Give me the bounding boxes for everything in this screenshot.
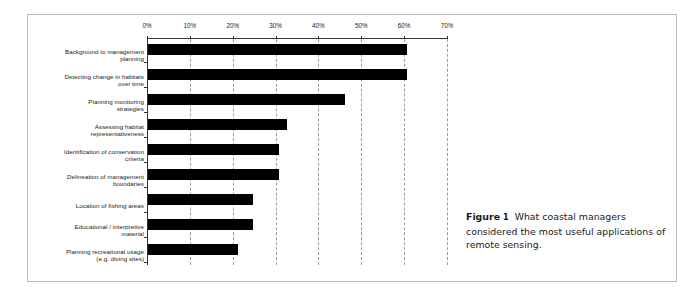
bar [148, 169, 279, 180]
category-label: Planning recreational usage (e.g. diving… [30, 248, 144, 263]
x-axis-tick-label: 50% [355, 22, 368, 29]
bar-chart: Background to management planningDetecti… [30, 16, 460, 278]
category-label: Delineation of management boundaries [30, 173, 144, 188]
category-label: Background to management planning [30, 48, 144, 63]
bar [148, 94, 345, 105]
x-axis-tick-label: 40% [312, 22, 325, 29]
bar [148, 244, 238, 255]
y-axis-tick-mark [144, 237, 147, 238]
bar [148, 69, 407, 80]
x-axis-tick-label: 60% [398, 22, 411, 29]
y-axis-tick-mark [144, 262, 147, 263]
bar [148, 219, 253, 230]
category-label: Assessing habitat representativeness [30, 123, 144, 138]
x-axis-tick-labels: 0%10%20%30%40%50%60%70% [147, 22, 447, 34]
category-label: Planning monitoring strategies [30, 98, 144, 113]
bar [148, 44, 407, 55]
category-label: Educational / interpretive material [30, 223, 144, 238]
x-axis-tick-label: 30% [269, 22, 282, 29]
x-axis-tick-label: 70% [441, 22, 454, 29]
y-axis-tick-mark [144, 87, 147, 88]
category-label: Identification of conservation criteria [30, 148, 144, 163]
category-label: Detecting change in habitats over time [30, 73, 144, 88]
x-axis-tick-label: 10% [184, 22, 197, 29]
figure-root: Background to management planningDetecti… [0, 0, 700, 296]
category-label: Location of fishing areas [30, 202, 144, 210]
bar [148, 144, 279, 155]
figure-caption: Figure 1 What coastal managers considere… [466, 210, 666, 252]
y-axis-tick-mark [144, 137, 147, 138]
bar [148, 119, 287, 130]
y-axis-tick-mark [144, 62, 147, 63]
y-axis-tick-mark [144, 162, 147, 163]
caption-label: Figure [466, 211, 500, 222]
bar-series [148, 38, 448, 268]
x-axis-tick-label: 0% [142, 22, 151, 29]
x-axis-tick-label: 20% [226, 22, 239, 29]
bar [148, 194, 253, 205]
y-axis-tick-mark [144, 212, 147, 213]
y-axis-tick-mark [144, 112, 147, 113]
y-axis-tick-mark [144, 187, 147, 188]
